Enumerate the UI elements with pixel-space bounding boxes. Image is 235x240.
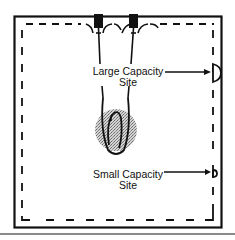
connector-block-left (94, 14, 103, 28)
bottom-dash-line (22, 216, 30, 220)
small-site-label-line2: Site (74, 180, 182, 191)
connector-block-right (129, 14, 138, 28)
diagram-canvas (0, 0, 235, 240)
site-diagram: Large Capacity Site Small Capacity Site (0, 0, 235, 240)
small-capacity-site-label: Small Capacity Site (74, 169, 182, 191)
bottom-dash-line (205, 212, 213, 220)
small-site-marker-icon (213, 165, 217, 177)
large-capacity-site-label: Large Capacity Site (74, 66, 182, 88)
large-site-marker-icon (213, 64, 221, 82)
large-site-label-line2: Site (74, 77, 182, 88)
